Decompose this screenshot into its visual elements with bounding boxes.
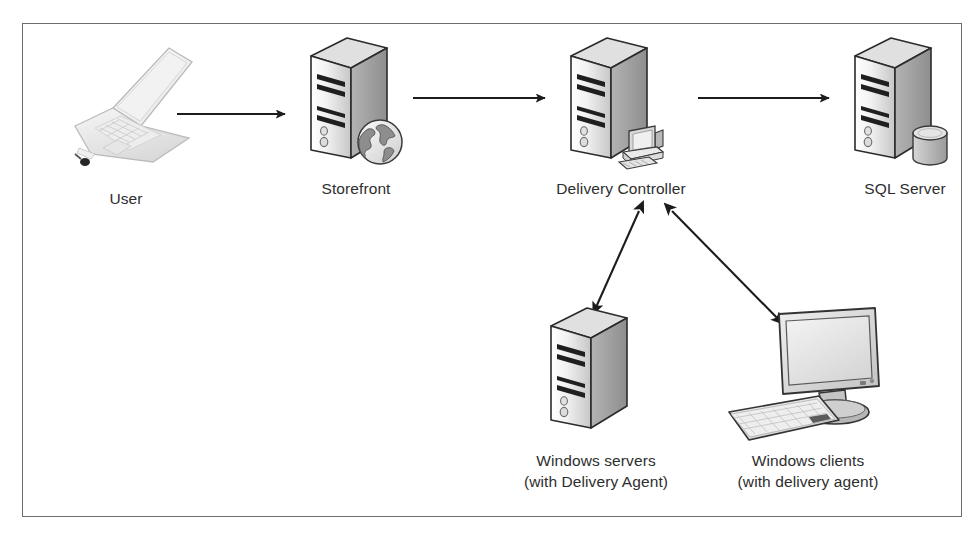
node-windows-servers[interactable]: Windows servers (with Delivery Agent) [531, 302, 661, 442]
edge-delivery-controller-to-windows-servers [593, 211, 639, 314]
label-text: Storefront [321, 180, 390, 197]
label-text: SQL Server [864, 180, 945, 197]
node-label-storefront: Storefront [321, 178, 390, 199]
server-tower-desktop-icon [551, 32, 691, 172]
label-text: Delivery Controller [556, 180, 685, 197]
laptop-icon [51, 42, 201, 172]
label-text: Windows servers [536, 452, 656, 469]
node-windows-clients[interactable]: Windows clients (with delivery agent) [723, 296, 893, 446]
server-tower-globe-icon [291, 32, 421, 172]
node-label-sql-server: SQL Server [864, 178, 945, 199]
diagram-canvas: User [0, 0, 976, 542]
desktop-monitor-keyboard-icon [723, 296, 893, 446]
node-sql-server[interactable]: SQL Server [835, 32, 975, 172]
node-label-user: User [109, 188, 142, 209]
label-text: User [109, 190, 142, 207]
node-storefront[interactable]: Storefront [291, 32, 421, 172]
label-text: Windows clients [752, 452, 865, 469]
diagram-frame: User [22, 23, 962, 517]
label-subtext: (with Delivery Agent) [524, 471, 668, 492]
node-label-windows-clients: Windows clients (with delivery agent) [738, 450, 879, 492]
node-delivery-controller[interactable]: Delivery Controller [551, 32, 691, 172]
label-subtext: (with delivery agent) [738, 471, 879, 492]
node-label-windows-servers: Windows servers (with Delivery Agent) [524, 450, 668, 492]
server-tower-icon [531, 302, 661, 442]
server-tower-database-icon [835, 32, 975, 172]
node-label-delivery-controller: Delivery Controller [556, 178, 685, 199]
database-cylinder-badge [913, 126, 947, 165]
node-user[interactable]: User [51, 42, 201, 172]
